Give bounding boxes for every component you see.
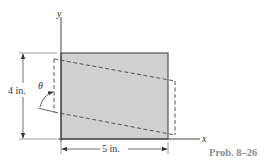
angle-reference-line [38, 108, 54, 112]
x-axis-label: x [201, 133, 207, 144]
width-label: 5 in. [102, 143, 120, 154]
undeformed-plate [61, 53, 168, 139]
height-label: 4 in. [8, 85, 26, 96]
angle-arc [40, 92, 53, 107]
problem-caption: Prob. 8–26 [209, 147, 257, 158]
problem-diagram: y x 4 in. 5 in. θ Prob. 8–26 [0, 0, 277, 164]
y-axis-label: y [56, 8, 62, 19]
angle-theta-label: θ [38, 80, 43, 91]
